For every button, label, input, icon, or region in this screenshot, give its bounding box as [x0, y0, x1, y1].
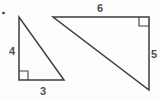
- bullet-dot: [2, 12, 5, 15]
- geometry-diagram: 4 3 6 5: [0, 0, 161, 99]
- small-triangle-right-angle-marker: [19, 71, 28, 80]
- large-triangle-right-angle-marker: [139, 17, 149, 26]
- label-large-triangle-horizontal-leg: 6: [97, 2, 103, 14]
- large-triangle: [53, 17, 149, 90]
- label-small-triangle-horizontal-leg: 3: [40, 85, 46, 97]
- label-small-triangle-vertical-leg: 4: [9, 45, 16, 57]
- label-large-triangle-vertical-leg: 5: [151, 48, 157, 60]
- triangles-figure: 4 3 6 5: [0, 0, 161, 99]
